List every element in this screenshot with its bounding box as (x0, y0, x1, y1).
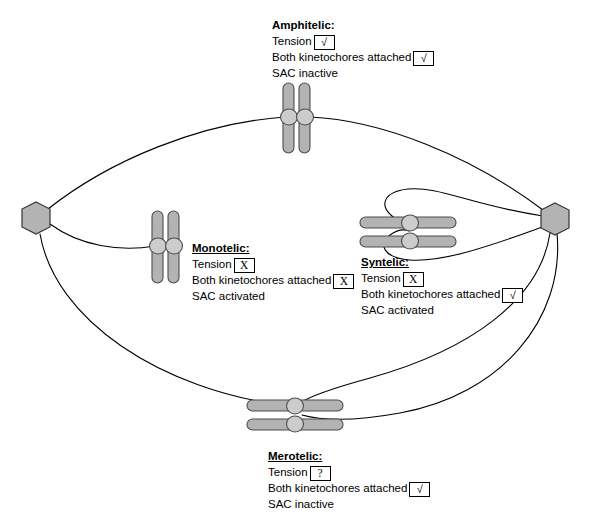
label-amphitelic: Amphitelic: Tension√ Both kinetochores a… (272, 18, 434, 81)
attached-text: Both kinetochores attached (272, 51, 411, 63)
label-merotelic: Merotelic: Tension? Both kinetochores at… (268, 449, 430, 512)
label-monotelic-title: Monotelic: (192, 241, 354, 256)
label-merotelic-title: Merotelic: (268, 449, 430, 464)
kinetochore (166, 238, 183, 254)
label-syntelic-attached: Both kinetochores attached√ (361, 287, 523, 303)
mt-left-to-amphitelic (48, 117, 285, 209)
tension-mark-box: X (234, 258, 255, 273)
label-syntelic: Syntelic: TensionX Both kinetochores att… (361, 255, 523, 318)
label-amphitelic-title: Amphitelic: (272, 18, 434, 33)
mt-right-to-amphitelic (310, 117, 543, 210)
label-monotelic-tension: TensionX (192, 257, 354, 273)
right-spindle-pole (541, 203, 569, 235)
attached-text: Both kinetochores attached (268, 482, 407, 494)
label-merotelic-sac: SAC inactive (268, 497, 430, 512)
kinetochore (287, 416, 304, 432)
monotelic-chromosome (150, 211, 183, 283)
attached-mark-box: √ (502, 288, 523, 303)
kinetochore (281, 109, 298, 125)
merotelic-chromosome (247, 398, 343, 432)
amphitelic-chromosome (281, 83, 314, 153)
label-syntelic-sac: SAC activated (361, 303, 523, 318)
attached-text: Both kinetochores attached (361, 288, 500, 300)
label-merotelic-attached: Both kinetochores attached√ (268, 481, 430, 497)
label-amphitelic-sac: SAC inactive (272, 66, 434, 81)
tension-text: Tension (272, 35, 312, 47)
label-amphitelic-attached: Both kinetochores attached√ (272, 50, 434, 66)
attached-mark-box: √ (413, 51, 434, 66)
kinetochore (297, 109, 314, 125)
kinetochore (150, 238, 167, 254)
mt-left-to-monotelic (50, 224, 155, 248)
label-merotelic-tension: Tension? (268, 465, 430, 481)
kinetochore (402, 233, 419, 249)
tension-text: Tension (268, 466, 308, 478)
syntelic-chromosome (360, 215, 456, 249)
tension-text: Tension (361, 272, 401, 284)
label-monotelic-attached: Both kinetochores attachedX (192, 273, 354, 289)
attached-mark-box: √ (409, 482, 430, 497)
tension-mark-box: √ (314, 35, 335, 50)
label-syntelic-tension: TensionX (361, 271, 523, 287)
attached-text: Both kinetochores attached (192, 274, 331, 286)
kinetochore (402, 215, 419, 231)
label-syntelic-title: Syntelic: (361, 255, 523, 270)
label-monotelic: Monotelic: TensionX Both kinetochores at… (192, 241, 354, 304)
label-monotelic-sac: SAC activated (192, 289, 354, 304)
left-spindle-pole (22, 202, 50, 234)
label-amphitelic-tension: Tension√ (272, 34, 434, 50)
spindle-poles (22, 202, 569, 235)
attached-mark-box: X (333, 274, 354, 289)
diagram-canvas: Amphitelic: Tension√ Both kinetochores a… (0, 0, 598, 516)
kinetochore (287, 398, 304, 414)
tension-mark-box: X (403, 272, 424, 287)
tension-text: Tension (192, 258, 232, 270)
tension-mark-box: ? (310, 466, 331, 481)
